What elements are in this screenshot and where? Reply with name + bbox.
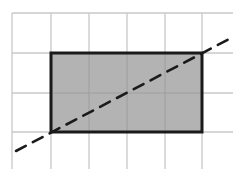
diagram-canvas	[0, 0, 233, 169]
